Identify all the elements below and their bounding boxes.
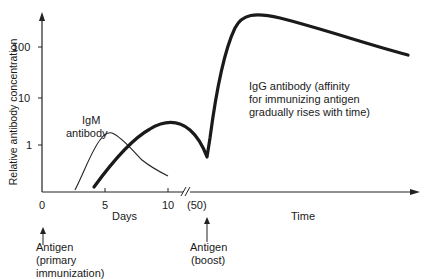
y-axis-label: Relative antibody concentration (7, 37, 19, 187)
igm-label-line2: antibody (66, 127, 108, 140)
x-axis-arrowhead (410, 189, 420, 195)
antigen-boost-arrowhead (204, 217, 210, 224)
antigen-boost-line1: Antigen (190, 241, 227, 254)
x-axis-label-time: Time (291, 210, 315, 223)
igg-label-line1: IgG antibody (affinity (249, 80, 350, 93)
x-axis-label-days: Days (112, 210, 137, 223)
x-tick-label-0: 0 (39, 199, 45, 212)
x-tick-label-10: 10 (162, 199, 174, 212)
antigen-primary-arrowhead (40, 227, 46, 234)
y-axis-arrowhead (39, 12, 45, 21)
antigen-boost-line2: (boost) (191, 254, 225, 267)
igg-label-line3: gradually rises with time) (249, 106, 370, 119)
antibody-response-diagram (0, 0, 425, 279)
y-tick-label-10: 10 (18, 92, 30, 105)
igg-label-line2: for immunizing antigen (249, 93, 360, 106)
antigen-primary-line3: immunization) (36, 267, 104, 279)
igm-label-line1: IgM (82, 114, 100, 127)
y-tick-label-1: 1 (26, 139, 32, 152)
antigen-primary-line1: Antigen (36, 241, 73, 254)
igm-curve (75, 133, 168, 190)
y-tick-label-100: 100 (12, 41, 30, 54)
x-tick-label-50: (50) (187, 199, 207, 212)
antigen-primary-line2: (primary (36, 254, 76, 267)
x-tick-label-5: 5 (102, 199, 108, 212)
